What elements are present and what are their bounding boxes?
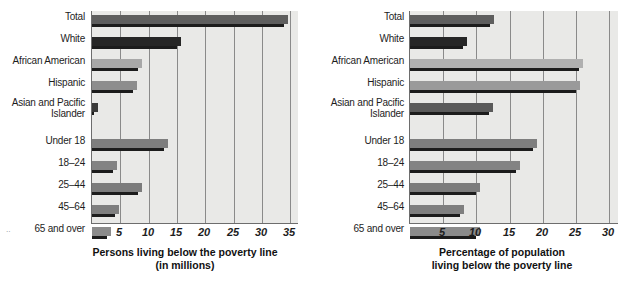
category-label: Under 18 [364,136,404,147]
chart-persons-plot-area [91,11,298,224]
bar-shadow [92,192,138,195]
bar-group [410,205,464,218]
chart-percentage-category-labels: TotalWhiteAfrican AmericanHispanicAsian … [321,10,407,225]
bar-shadow [92,214,115,217]
bar-group [92,183,142,196]
x-tick-label: 30 [255,226,267,238]
category-label: Asian and Pacific Islander [1,98,85,119]
chart-percentage-caption: Percentage of population living below th… [377,246,627,271]
category-label: African American [13,56,85,67]
chart-percentage-plot-area [409,11,618,224]
chart-persons-panel: TotalWhiteAfrican AmericanHispanicAsian … [0,0,317,291]
bar-african-american [92,59,142,68]
category-label: 18–24 [58,158,85,169]
gridline-35 [290,11,291,223]
category-label: White [60,34,85,45]
chart-percentage-caption-line1: Percentage of population [377,246,627,259]
poverty-charts-figure: TotalWhiteAfrican AmericanHispanicAsian … [0,0,634,291]
bar-under-18 [410,139,537,148]
bar-shadow [410,192,476,195]
category-label: Under 18 [45,136,85,147]
bar-group [92,139,168,152]
gridline-20 [205,11,206,223]
bar-18-24 [410,161,520,170]
bar-shadow [92,148,164,151]
bar-group [410,183,480,196]
x-tick-label: 5 [116,226,122,238]
category-label: 25–44 [58,180,85,191]
bar-group [92,59,142,72]
chart-persons-caption-line2: (in millions) [60,259,310,272]
x-tick-label: 20 [536,226,548,238]
bar-group [410,37,467,50]
bar-18-24 [92,161,117,170]
bar-shadow [410,68,579,71]
x-tick-label: 10 [469,226,481,238]
bar-shadow [410,148,533,151]
x-tick-label: 25 [227,226,239,238]
bar-asian-and-pacific-islander [92,103,98,112]
chart-percentage-panel: TotalWhiteAfrican AmericanHispanicAsian … [317,0,634,291]
bar-white [410,37,467,46]
bar-shadow [92,170,113,173]
x-tick-label: 15 [170,226,182,238]
bar-group [410,59,583,72]
gridline-15 [510,11,511,223]
bar-group [92,15,288,28]
category-label: Total [384,12,404,23]
gridline-30 [609,11,610,223]
x-tick-label: 10 [142,226,154,238]
category-label: White [379,34,404,45]
bar-hispanic [92,81,137,90]
gridline-25 [576,11,577,223]
chart-percentage-x-axis-ticks: 51015202530 [409,226,618,240]
bar-group [92,161,117,174]
bar-25-44 [410,183,480,192]
category-label: 45–64 [58,202,85,213]
category-label: Asian and Pacific Islander [320,98,404,119]
category-label: Hispanic [48,78,85,89]
category-label: 18–24 [377,158,404,169]
bar-total [92,15,288,24]
bar-shadow [92,68,138,71]
bar-shadow [92,24,284,27]
bar-group [92,205,119,218]
chart-persons-category-labels: TotalWhiteAfrican AmericanHispanicAsian … [2,10,88,225]
bar-45-64 [92,205,119,214]
chart-persons-caption: Persons living below the poverty line (i… [60,246,310,271]
bar-white [92,37,181,46]
category-label: 45–64 [377,202,404,213]
category-label: African American [332,56,404,67]
bar-shadow [410,24,490,27]
gridline-25 [234,11,235,223]
bar-group [92,37,181,50]
category-label: 25–44 [377,180,404,191]
gridline-30 [262,11,263,223]
bar-group [410,15,494,28]
bar-total [410,15,494,24]
category-label: Total [65,12,85,23]
bar-shadow [410,112,489,115]
x-tick-label: 25 [569,226,581,238]
category-label: Hispanic [367,78,404,89]
bar-under-18 [92,139,168,148]
bar-african-american [410,59,583,68]
bar-group [410,161,520,174]
chart-persons-caption-line1: Persons living below the poverty line [60,246,310,259]
bar-asian-and-pacific-islander [410,103,493,112]
bar-group [410,81,580,94]
bar-hispanic [410,81,580,90]
bar-shadow [410,90,576,93]
category-label: 65 and over [353,224,404,235]
bar-shadow [92,112,94,115]
bar-shadow [410,170,516,173]
bar-shadow [410,46,463,49]
gridline-20 [543,11,544,223]
bar-group [92,103,98,116]
bar-group [410,103,493,116]
chart-persons-x-axis-ticks: 5101520253035 [91,226,298,240]
x-tick-label: 35 [283,226,295,238]
x-tick-label: 15 [503,226,515,238]
bar-25-44 [92,183,142,192]
bar-shadow [92,46,177,49]
